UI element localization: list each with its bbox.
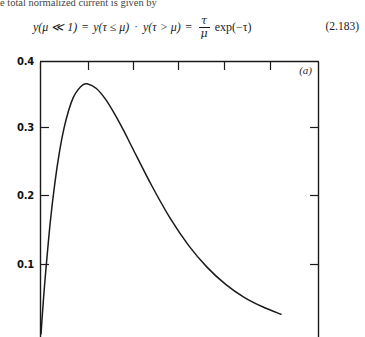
equation-multiply-dot: · <box>132 20 140 32</box>
equation-fraction: τ μ <box>199 15 210 40</box>
equation-number: (2.183) <box>325 20 359 32</box>
figure-panel-a: 0.4 0.3 0.2 0.1 (a) <box>0 46 365 337</box>
equation-term-2: y(τ > μ) <box>143 20 181 34</box>
page-root: e total normalized current is given by y… <box>0 0 365 337</box>
fraction-numerator: τ <box>199 15 210 26</box>
equation-lhs: y(μ ≪ 1) <box>33 20 77 34</box>
ytick-marks-right <box>310 128 318 265</box>
running-text: e total normalized current is given by <box>0 0 365 10</box>
equation-equals-1: = <box>80 20 90 34</box>
equation-expression: y(μ ≪ 1) = y(τ ≤ μ) · y(τ > μ) = τ μ exp… <box>33 16 252 41</box>
display-equation: y(μ ≪ 1) = y(τ ≤ μ) · y(τ > μ) = τ μ exp… <box>0 14 365 46</box>
data-curve <box>41 84 281 334</box>
equation-equals-2: = <box>184 20 194 34</box>
equation-exponential: exp(−τ) <box>215 20 252 34</box>
equation-term-1: y(τ ≤ μ) <box>93 20 129 34</box>
fraction-denominator: μ <box>199 28 210 40</box>
plot-area <box>0 46 365 337</box>
xtick-marks-top <box>89 62 271 70</box>
